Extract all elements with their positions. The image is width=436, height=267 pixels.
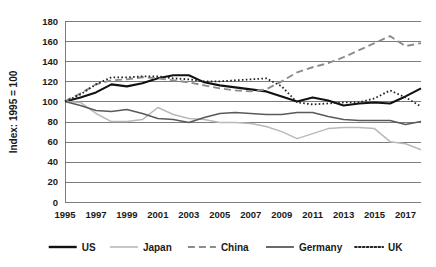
y-tick-label-60: 60	[47, 136, 58, 147]
gridlines	[65, 21, 421, 203]
y-tick-label-160: 160	[42, 36, 58, 47]
y-tick-label-140: 140	[42, 56, 58, 67]
series-line-china	[65, 36, 421, 101]
x-axis-tick-labels: 1995199719992001200320052007200920112013…	[54, 209, 416, 220]
y-tick-label-20: 20	[47, 176, 58, 187]
x-tick-label-1997: 1997	[85, 209, 106, 220]
y-tick-label-40: 40	[47, 156, 58, 167]
chart-container: 020406080100120140160180 199519971999200…	[0, 0, 436, 267]
x-tick-label-1995: 1995	[54, 209, 76, 220]
legend-label-japan[interactable]: Japan	[143, 242, 172, 253]
x-tick-label-2003: 2003	[178, 209, 199, 220]
y-axis-title: Index: 1995 = 100	[8, 70, 19, 153]
chart-legend: USJapanChinaGermanyUK	[49, 242, 404, 253]
y-tick-label-0: 0	[53, 197, 58, 208]
y-tick-label-120: 120	[42, 76, 58, 87]
x-tick-label-2001: 2001	[147, 209, 169, 220]
legend-label-uk[interactable]: UK	[388, 242, 403, 253]
legend-label-germany[interactable]: Germany	[299, 242, 343, 253]
legend-label-us[interactable]: US	[82, 242, 96, 253]
legend-label-china[interactable]: China	[221, 242, 249, 253]
y-axis-tick-labels: 020406080100120140160180	[42, 16, 58, 208]
x-tick-label-2007: 2007	[240, 209, 261, 220]
x-tick-label-2011: 2011	[302, 209, 323, 220]
x-tick-label-2013: 2013	[333, 209, 354, 220]
x-tick-label-2015: 2015	[364, 209, 386, 220]
y-tick-label-180: 180	[42, 16, 58, 27]
line-chart: 020406080100120140160180 199519971999200…	[0, 0, 436, 267]
x-tick-label-1999: 1999	[116, 209, 137, 220]
x-tick-label-2005: 2005	[209, 209, 231, 220]
y-tick-label-80: 80	[47, 116, 58, 127]
x-tick-label-2009: 2009	[271, 209, 292, 220]
data-series-group	[65, 36, 421, 150]
y-tick-label-100: 100	[42, 96, 58, 107]
x-tick-label-2017: 2017	[395, 209, 416, 220]
